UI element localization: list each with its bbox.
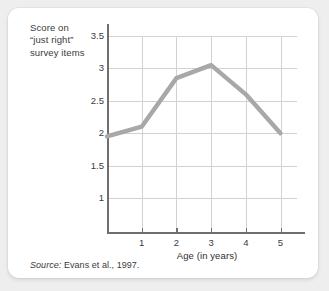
plot-area: 3.532.521.51 12345 xyxy=(107,20,307,240)
y-axis-tick-label: 1 xyxy=(64,192,104,203)
y-axis-tick-label: 3 xyxy=(64,62,104,73)
figure-card: Score on “just right” survey items 3.532… xyxy=(8,8,318,278)
y-axis-tick-label: 3.5 xyxy=(64,30,104,41)
y-axis-tick-label: 2.5 xyxy=(64,95,104,106)
source-citation: Evans et al., 1997. xyxy=(61,260,139,270)
data-series-line xyxy=(107,20,307,240)
y-axis-tick-label: 2 xyxy=(64,127,104,138)
y-axis-tick-label: 1.5 xyxy=(64,160,104,171)
source-caption: Source: Evans et al., 1997. xyxy=(30,260,139,270)
source-label: Source: xyxy=(30,260,61,270)
